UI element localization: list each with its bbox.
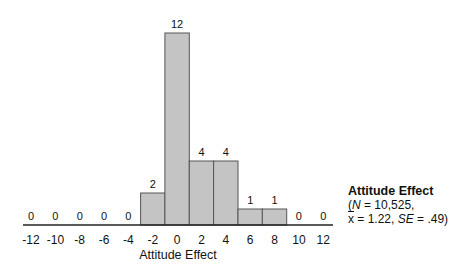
histogram-chart: 00000212441100 -12-10-8-6-4-2024681012 A… [0,0,476,270]
annotation-line-n: (N = 10,525, [348,198,448,212]
bar-2 [189,161,213,225]
x-tick-label: -12 [22,233,40,247]
x-tick-label: -10 [47,233,65,247]
annotation-n-value: = 10,525, [361,198,415,212]
x-tick-label: -6 [99,233,110,247]
x-tick-labels-group: -12-10-8-6-4-2024681012 [22,233,330,247]
chart-annotation: Attitude Effect (N = 10,525, x = 1.22, S… [348,184,448,226]
x-tick-label: 10 [292,233,306,247]
x-tick-label: -2 [147,233,158,247]
value-label: 0 [296,210,302,222]
x-tick-label: 12 [317,233,331,247]
value-label: 0 [101,210,107,222]
x-tick-label: 8 [271,233,278,247]
value-label: 0 [125,210,131,222]
annotation-se-value: = .49) [414,212,448,226]
value-label: 2 [150,178,156,190]
bar-6 [238,209,262,225]
annotation-title: Attitude Effect [348,184,448,198]
value-label: 0 [320,210,326,222]
value-label: 4 [198,146,204,158]
x-tick-label: 2 [198,233,205,247]
value-label: 12 [171,18,183,30]
bar-8 [262,209,286,225]
value-label: 0 [77,210,83,222]
bar-0 [165,33,189,225]
bars-group [141,33,287,225]
bar-4 [214,161,238,225]
value-label: 4 [223,146,229,158]
x-tick-label: -4 [123,233,134,247]
annotation-line-stats: x = 1.22, SE = .49) [348,212,448,226]
bar--2 [141,193,165,225]
value-label: 0 [28,210,34,222]
x-tick-label: 4 [222,233,229,247]
annotation-se-label: SE [398,212,414,226]
annotation-mean-value: = 1.22, [354,212,398,226]
annotation-n-label: N [352,198,361,212]
x-tick-label: 0 [174,233,181,247]
value-label: 0 [52,210,58,222]
value-label: 1 [271,194,277,206]
value-label: 1 [247,194,253,206]
x-tick-label: -8 [74,233,85,247]
x-axis-label: Attitude Effect [139,248,217,262]
x-tick-label: 6 [247,233,254,247]
